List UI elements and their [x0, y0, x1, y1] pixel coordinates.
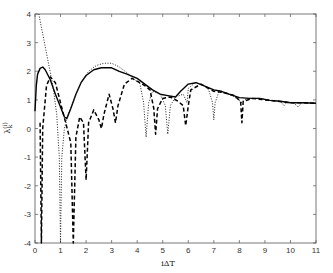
- y-tick-label: 3: [27, 39, 32, 48]
- x-tick-label: 2: [84, 246, 89, 255]
- y-tick-label: 2: [27, 67, 32, 76]
- x-tick-label: 4: [135, 246, 140, 255]
- x-axis-label: iΔT: [161, 259, 175, 268]
- x-tick-label: 7: [212, 246, 217, 255]
- x-tick-label: 3: [109, 246, 114, 255]
- series-solid-line: [35, 67, 316, 119]
- x-tick-label: 10: [286, 246, 295, 255]
- y-tick-label: 0: [27, 125, 32, 134]
- y-axis-label: λ(i)k: [1, 122, 13, 134]
- plot-frame: [35, 14, 316, 243]
- x-tick-label: 0: [33, 246, 38, 255]
- y-tick-label: -4: [24, 239, 32, 248]
- y-axis-ticks: -4-3-2-101234: [24, 10, 316, 248]
- series-dashed-line: [40, 77, 316, 243]
- y-tick-label: -3: [24, 210, 32, 219]
- svg-text:λ(i)k: λ(i)k: [1, 122, 13, 134]
- x-tick-label: 6: [186, 246, 191, 255]
- data-series: [35, 14, 316, 243]
- x-tick-label: 11: [312, 246, 321, 255]
- x-tick-label: 1: [58, 246, 63, 255]
- y-tick-label: -1: [24, 153, 32, 162]
- y-tick-label: 1: [27, 96, 32, 105]
- chart: 01234567891011 -4-3-2-101234 iΔT λ(i)k: [0, 0, 333, 273]
- series-dotted-line: [39, 14, 316, 243]
- y-tick-label: 4: [27, 10, 32, 19]
- y-tick-label: -2: [24, 182, 32, 191]
- x-tick-label: 8: [237, 246, 242, 255]
- x-tick-label: 5: [161, 246, 166, 255]
- x-tick-label: 9: [263, 246, 268, 255]
